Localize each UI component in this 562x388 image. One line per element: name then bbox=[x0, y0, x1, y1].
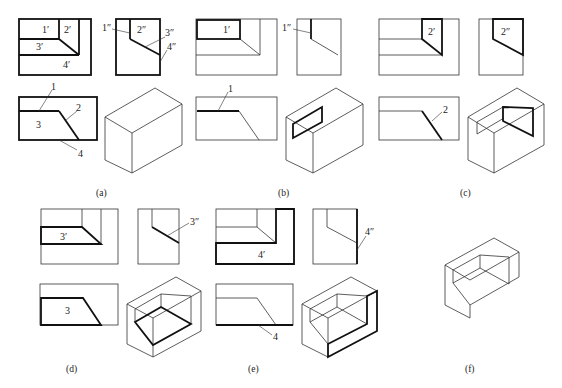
label-2: 2 bbox=[443, 104, 448, 115]
isometric-shape-f bbox=[445, 238, 519, 318]
top-view-c: 2 bbox=[379, 97, 459, 140]
label-4-prime: 4′ bbox=[258, 249, 265, 260]
label-1: 1 bbox=[51, 81, 56, 92]
front-view-d: 3′ bbox=[41, 209, 118, 264]
label-2-double-prime: 2″ bbox=[501, 26, 510, 37]
label-4-double-prime: 4″ bbox=[365, 226, 374, 237]
front-view-a: 1′ 2′ 3′ 4′ bbox=[19, 19, 91, 75]
caption-c: (c) bbox=[460, 188, 471, 199]
isometric-shape-d bbox=[127, 277, 201, 357]
label-2: 2 bbox=[76, 102, 81, 113]
label-3-double-prime: 3″ bbox=[190, 216, 199, 227]
caption-e: (e) bbox=[248, 364, 259, 375]
three-view-projection-diagram: 1′ 2′ 3′ 4′ 1″ 2″ 3″ 4″ 1 2 bbox=[0, 0, 562, 388]
isometric-shape-e bbox=[302, 277, 377, 357]
isometric-box-b bbox=[286, 88, 363, 173]
front-view-b: 1′ bbox=[196, 19, 277, 75]
label-3-prime: 3′ bbox=[36, 41, 43, 52]
top-view-a: 1 2 3 4 bbox=[19, 81, 97, 159]
label-2-prime: 2′ bbox=[64, 24, 71, 35]
isometric-box-c bbox=[468, 88, 544, 173]
label-4: 4 bbox=[273, 331, 278, 342]
isometric-box-a bbox=[105, 88, 182, 173]
side-view-c: 2″ bbox=[479, 19, 523, 75]
panel-a: 1′ 2′ 3′ 4′ 1″ 2″ 3″ 4″ 1 2 bbox=[19, 19, 182, 199]
panel-e: 4′ 4″ 4 bbox=[216, 209, 377, 375]
label-3-prime: 3′ bbox=[60, 231, 67, 242]
caption-d: (d) bbox=[66, 364, 77, 375]
caption-f: (f) bbox=[465, 364, 475, 375]
label-2-double-prime: 2″ bbox=[137, 24, 146, 35]
side-view-b: 1″ bbox=[282, 19, 341, 75]
top-view-e: 4 bbox=[216, 284, 293, 342]
label-3: 3 bbox=[65, 305, 70, 316]
label-1-prime: 1′ bbox=[223, 24, 230, 35]
label-1-double-prime: 1″ bbox=[282, 22, 291, 33]
panel-d: 3′ 3″ 3 (d) bbox=[40, 209, 201, 375]
label-1-double-prime: 1″ bbox=[102, 22, 111, 33]
side-view-a: 1″ 2″ 3″ 4″ bbox=[102, 19, 176, 75]
label-4-double-prime: 4″ bbox=[167, 41, 176, 52]
side-view-e: 4″ bbox=[313, 209, 374, 264]
label-2-prime: 2′ bbox=[428, 26, 435, 37]
side-view-d: 3″ bbox=[138, 209, 199, 264]
label-1-prime: 1′ bbox=[42, 24, 49, 35]
caption-b: (b) bbox=[278, 188, 289, 199]
panel-c: 2′ 2″ 2 (c) bbox=[379, 19, 544, 199]
label-4-prime: 4′ bbox=[63, 59, 70, 70]
label-3: 3 bbox=[36, 119, 41, 130]
front-view-c: 2′ bbox=[379, 19, 459, 75]
caption-a: (a) bbox=[96, 188, 107, 199]
front-view-e: 4′ bbox=[216, 209, 294, 264]
panel-f: (f) bbox=[445, 238, 519, 375]
panel-b: 1′ 1″ 1 (b) bbox=[196, 19, 363, 199]
top-view-b: 1 bbox=[196, 83, 277, 140]
top-view-d: 3 bbox=[40, 284, 118, 325]
label-4: 4 bbox=[78, 148, 83, 159]
label-3-double-prime: 3″ bbox=[165, 27, 174, 38]
label-1: 1 bbox=[228, 83, 233, 94]
